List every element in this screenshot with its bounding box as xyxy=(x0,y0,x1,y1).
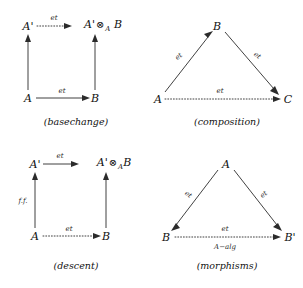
node-morphisms-bottom-right: B' xyxy=(284,232,295,243)
caption-descent: (descent) xyxy=(54,261,99,271)
edge-left-morphisms xyxy=(176,170,218,225)
node-label-sub: A xyxy=(105,25,110,33)
edge-label-descent-left: f.f. xyxy=(18,198,27,205)
node-descent-bottom-left: A xyxy=(31,231,39,242)
node-composition-bottom-right: C xyxy=(284,94,292,105)
node-descent-top-right: A'⊗AB xyxy=(97,157,132,171)
edge-label-morphisms-base-below: A−alg xyxy=(214,244,236,251)
arrowhead-bottom-descent xyxy=(93,233,101,239)
node-label: A xyxy=(31,230,39,243)
edge-label-descent-bottom: et xyxy=(66,226,73,233)
panel-morphisms: A B B' et et et A−alg (morphisms) xyxy=(151,144,303,288)
node-descent-bottom-right: B xyxy=(102,231,110,242)
arrowhead-bottom-basechange xyxy=(82,95,90,101)
panel-descent: A' A'⊗AB A B et et f.f. (descent) xyxy=(0,144,152,288)
node-label: B' xyxy=(284,231,295,244)
node-basechange-top-left: A' xyxy=(23,21,34,32)
node-composition-apex: B xyxy=(213,21,221,32)
tensor-icon: ⊗ xyxy=(108,157,118,168)
node-label: B xyxy=(213,20,221,33)
edge-left-composition xyxy=(165,37,208,92)
node-label: A xyxy=(222,158,230,171)
arrowhead-top-basechange xyxy=(64,23,72,29)
arrowhead-base-composition xyxy=(273,96,281,102)
node-basechange-top-right: A'⊗A B xyxy=(84,19,122,33)
arrowhead-right-composition xyxy=(270,86,279,95)
node-label: C xyxy=(284,93,292,106)
edge-right-morphisms xyxy=(234,170,277,225)
arrowhead-top-descent xyxy=(71,161,79,167)
node-morphisms-bottom-left: B xyxy=(162,232,170,243)
node-label: A' xyxy=(30,158,41,171)
node-label-part: A' xyxy=(97,156,108,169)
diagram-figure: A' A'⊗A B A B et et (basechange) B A C e… xyxy=(0,0,303,288)
panel-composition: B A C et et et (composition) xyxy=(151,0,303,144)
arrowhead-right-descent xyxy=(103,172,109,180)
tensor-icon: ⊗ xyxy=(95,19,105,30)
node-label: B xyxy=(162,231,170,244)
panel-basechange: A' A'⊗A B A B et et (basechange) xyxy=(0,0,152,144)
edge-right-composition xyxy=(225,32,274,89)
node-descent-top-left: A' xyxy=(30,159,41,170)
arrowhead-left-composition xyxy=(204,31,213,38)
arrowhead-base-morphisms xyxy=(273,234,281,240)
node-morphisms-apex: A xyxy=(222,159,230,170)
node-label-part: B xyxy=(114,18,122,31)
edge-label-basechange-top: et xyxy=(51,15,58,22)
node-label: A' xyxy=(23,20,34,33)
edge-label-morphisms-base-above: et xyxy=(222,226,229,233)
edge-label-composition-base: et xyxy=(217,88,224,95)
node-label-part: B xyxy=(123,156,131,169)
arrowhead-left-morphisms xyxy=(171,223,180,231)
node-basechange-bottom-left: A xyxy=(24,93,32,104)
caption-composition: (composition) xyxy=(194,117,260,127)
node-label: B xyxy=(102,230,110,243)
caption-basechange: (basechange) xyxy=(44,117,109,127)
arrowhead-left-descent xyxy=(32,172,38,180)
edge-label-descent-top: et xyxy=(57,153,64,160)
node-label: A xyxy=(154,93,162,106)
arrowhead-right-morphisms xyxy=(273,223,282,231)
node-label-part: A' xyxy=(84,18,95,31)
arrowhead-left-basechange xyxy=(25,34,31,42)
node-label: B xyxy=(91,92,99,105)
caption-morphisms: (morphisms) xyxy=(197,261,258,271)
edge-label-basechange-bottom: et xyxy=(59,88,66,95)
node-composition-bottom-left: A xyxy=(154,94,162,105)
node-basechange-bottom-right: B xyxy=(91,93,99,104)
node-label: A xyxy=(24,92,32,105)
arrowhead-right-basechange xyxy=(92,34,98,42)
